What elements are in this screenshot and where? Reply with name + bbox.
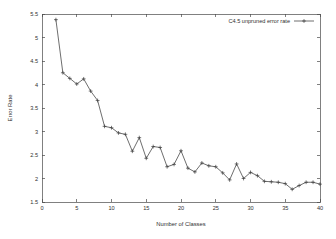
- y-tick-label: 3: [35, 129, 38, 135]
- x-tick-label: 0: [40, 205, 43, 211]
- line-chart: 0510152025303540 1.522.533.544.555.5 Num…: [0, 0, 336, 239]
- x-axis-tick-labels: 0510152025303540: [40, 205, 323, 211]
- x-tick-label: 40: [317, 205, 323, 211]
- series-markers-1: [54, 18, 322, 191]
- chart-figure: 0510152025303540 1.522.533.544.555.5 Num…: [0, 0, 336, 239]
- x-tick-label: 25: [213, 205, 219, 211]
- y-axis-ticks: [42, 14, 320, 202]
- x-tick-label: 10: [108, 205, 114, 211]
- series-line-1: [56, 20, 320, 190]
- y-axis-tick-labels: 1.522.533.544.555.5: [30, 11, 38, 205]
- legend-sample-series-1: [294, 19, 314, 23]
- y-tick-label: 2.5: [30, 152, 38, 158]
- plot-border: [42, 14, 320, 202]
- x-tick-label: 35: [282, 205, 288, 211]
- x-tick-label: 30: [247, 205, 253, 211]
- y-axis-title: Error Rate: [7, 95, 13, 122]
- x-tick-label: 20: [178, 205, 184, 211]
- x-axis-ticks: [42, 14, 320, 202]
- chart-legend: C4.5 unpruned error rate: [228, 18, 314, 24]
- y-tick-label: 3.5: [30, 105, 38, 111]
- x-tick-label: 15: [143, 205, 149, 211]
- y-tick-label: 1.5: [30, 199, 38, 205]
- x-tick-label: 5: [75, 205, 78, 211]
- data-series-group: [54, 18, 322, 191]
- legend-label-series-1: C4.5 unpruned error rate: [228, 18, 290, 24]
- x-axis-title: Number of Classes: [156, 221, 205, 227]
- y-tick-label: 4.5: [30, 58, 38, 64]
- y-tick-label: 5: [35, 35, 38, 41]
- y-tick-label: 4: [35, 82, 38, 88]
- y-tick-label: 2: [35, 176, 38, 182]
- plot-frame: [42, 14, 320, 202]
- y-tick-label: 5.5: [30, 11, 38, 17]
